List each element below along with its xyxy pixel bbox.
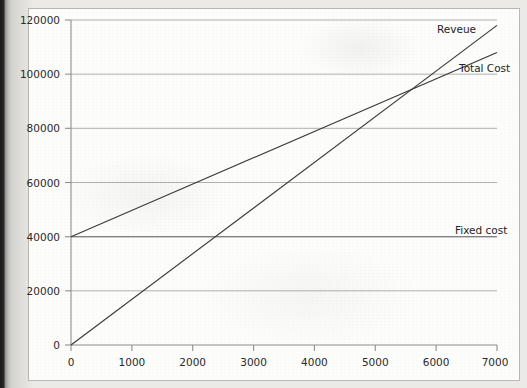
series-line-total-cost: [71, 53, 497, 237]
gridlines-horizontal: [71, 20, 497, 291]
x-axis-ticks: [71, 345, 497, 351]
x-tick-label-2000: 2000: [179, 356, 206, 368]
x-tick-label-4000: 4000: [301, 356, 328, 368]
series-label-fixed-cost: Fixed cost: [455, 224, 507, 236]
series-label-total-cost: Total Cost: [458, 62, 510, 74]
series-line-revenue: [71, 25, 497, 345]
y-tick-label-40000: 40000: [27, 231, 60, 243]
breakeven-chart: 0 20000 40000 60000 80000 100000 120000 …: [0, 0, 527, 388]
x-tick-label-3000: 3000: [240, 356, 267, 368]
x-tick-label-5000: 5000: [362, 356, 389, 368]
y-tick-label-0: 0: [53, 339, 60, 351]
y-tick-label-60000: 60000: [27, 177, 60, 189]
chart-svg: 0 20000 40000 60000 80000 100000 120000 …: [0, 0, 527, 388]
x-tick-label-6000: 6000: [423, 356, 450, 368]
x-tick-label-7000: 7000: [482, 356, 509, 368]
x-tick-label-0: 0: [68, 356, 75, 368]
y-tick-label-120000: 120000: [20, 14, 60, 26]
screenshot-root: 0 20000 40000 60000 80000 100000 120000 …: [0, 0, 527, 388]
y-tick-label-80000: 80000: [27, 122, 60, 134]
x-tick-label-1000: 1000: [119, 356, 146, 368]
y-tick-label-20000: 20000: [27, 285, 60, 297]
series-label-revenue: Reveue: [437, 23, 476, 35]
y-tick-label-100000: 100000: [20, 68, 60, 80]
y-axis-ticks: [65, 20, 71, 345]
